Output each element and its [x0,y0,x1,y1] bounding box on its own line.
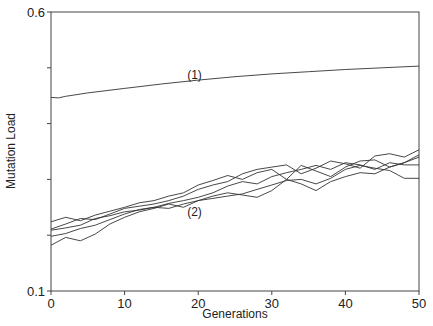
y-tick-label: 0.6 [27,5,45,20]
series-line-2-replicate [51,150,419,229]
x-tick-label: 0 [47,296,54,311]
y-axis-ticks: 0.10.6 [27,5,51,299]
y-tick-label: 0.1 [27,284,45,299]
series-line-2-replicate [51,157,419,245]
series-line-2-replicate [51,165,419,236]
series-lines [51,66,419,245]
y-axis-title: Mutation Load [4,113,18,189]
curve-label: (2) [187,205,202,219]
x-axis-title: Generations [202,307,267,321]
series-line-1 [51,66,419,98]
x-tick-label: 10 [117,296,131,311]
x-tick-label: 50 [412,296,426,311]
x-tick-label: 40 [338,296,352,311]
mutation-load-chart: 0.10.6 01020304050 (1)(2) Generations Mu… [0,0,433,326]
plot-frame [51,12,419,291]
curve-label: (1) [187,68,202,82]
curve-labels: (1)(2) [187,68,202,219]
